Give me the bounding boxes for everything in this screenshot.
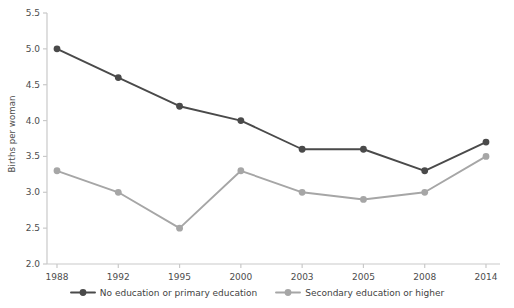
y-tick-label: 3.5 <box>14 151 40 161</box>
x-tick-label: 1995 <box>168 272 191 282</box>
x-tick-label: 2014 <box>475 272 498 282</box>
line-chart: Births per woman 2.02.53.03.54.04.55.05.… <box>0 0 514 308</box>
legend-marker-icon <box>70 287 96 298</box>
data-point-marker <box>421 189 428 196</box>
plot-svg <box>0 0 514 285</box>
data-point-marker <box>421 167 428 174</box>
data-point-marker <box>115 74 122 81</box>
data-point-marker <box>360 146 367 153</box>
chart-legend: No education or primary educationSeconda… <box>0 287 514 298</box>
legend-item[interactable]: Secondary education or higher <box>275 287 444 298</box>
data-point-marker <box>483 153 490 160</box>
data-point-marker <box>299 146 306 153</box>
x-tick-label: 2005 <box>352 272 375 282</box>
y-tick-label: 5.0 <box>14 44 40 54</box>
data-point-marker <box>176 103 183 110</box>
series-layer <box>54 45 490 231</box>
series-line <box>57 49 486 171</box>
x-tick-label: 2008 <box>413 272 436 282</box>
data-series <box>54 45 490 174</box>
plot-area: 2.02.53.03.54.04.55.05.5 198819921995200… <box>0 0 514 285</box>
legend-item[interactable]: No education or primary education <box>70 287 257 298</box>
x-tick-label: 2000 <box>229 272 252 282</box>
data-point-marker <box>237 117 244 124</box>
data-point-marker <box>54 45 61 52</box>
y-tick-label: 2.0 <box>14 259 40 269</box>
x-tick-label: 2003 <box>291 272 314 282</box>
data-series <box>54 153 490 232</box>
data-point-marker <box>54 167 61 174</box>
data-point-marker <box>115 189 122 196</box>
y-tick-label: 2.5 <box>14 223 40 233</box>
y-tick-label: 5.5 <box>14 8 40 18</box>
data-point-marker <box>237 167 244 174</box>
x-tick-label: 1988 <box>46 272 69 282</box>
x-tick-label: 1992 <box>107 272 130 282</box>
data-point-marker <box>483 139 490 146</box>
y-tick-label: 4.5 <box>14 80 40 90</box>
legend-label: No education or primary education <box>100 288 257 298</box>
y-tick-label: 3.0 <box>14 187 40 197</box>
legend-label: Secondary education or higher <box>305 288 444 298</box>
legend-marker-icon <box>275 287 301 298</box>
data-point-marker <box>360 196 367 203</box>
axis-layer <box>43 13 500 268</box>
data-point-marker <box>299 189 306 196</box>
data-point-marker <box>176 225 183 232</box>
y-tick-label: 4.0 <box>14 116 40 126</box>
